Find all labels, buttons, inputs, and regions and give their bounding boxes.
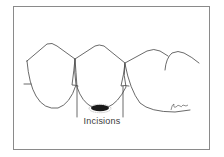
artist-signature <box>171 104 188 110</box>
left-tooth-outline <box>27 43 76 108</box>
incision-mark <box>89 104 111 112</box>
tooth-illustration <box>0 0 224 157</box>
gum-line <box>125 64 190 112</box>
far-right-tooth-outline <box>165 52 199 71</box>
right-tooth-outline <box>125 50 168 64</box>
middle-tooth-outline <box>75 45 126 107</box>
incisions-label: Incisions <box>78 116 126 126</box>
